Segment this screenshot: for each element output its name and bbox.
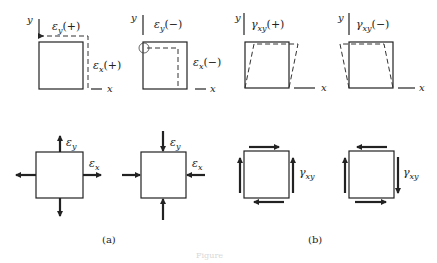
shear-strain-negative-element: y γxy(−) x [337, 12, 425, 93]
original-square [349, 42, 393, 88]
original-square [245, 42, 289, 88]
x-axis-label: x [107, 83, 113, 94]
deformed-outline-dashed [340, 44, 393, 88]
y-axis-label: y [26, 14, 33, 25]
deformed-outline-dashed [39, 36, 88, 89]
shear-label: γxy(−) [356, 18, 389, 33]
x-axis-label: x [321, 82, 327, 93]
element-square [349, 151, 394, 198]
deformed-outline-dashed [147, 48, 178, 89]
y-axis-label: y [337, 12, 344, 23]
x-axis-label: x [419, 82, 425, 93]
strain-y-label: εy [170, 136, 181, 151]
strain-x-label: εx [192, 157, 203, 172]
strain-x-label: εx(−) [193, 56, 221, 71]
shear-label: γxy [299, 166, 315, 181]
strain-y-label: εy [66, 136, 77, 151]
normal-strain-negative-element: y εy(−) εx(−) x [130, 12, 221, 94]
normal-strain-positive-element: y εy(+) εx(+) x [26, 14, 121, 94]
element-square [244, 151, 289, 198]
panel-a-label: (a) [102, 234, 116, 245]
positive-shear-element: γxy [240, 147, 315, 202]
y-axis-label: y [234, 12, 241, 23]
strain-y-label: εy(+) [52, 20, 80, 35]
deformed-outline-dashed [245, 44, 298, 88]
shear-label: γxy(+) [251, 18, 284, 33]
shear-strain-positive-element: y γxy(+) x [234, 12, 327, 93]
figure-caption: Figure [196, 251, 223, 260]
y-axis-label: y [130, 12, 137, 23]
panel-b-label: (b) [308, 234, 322, 245]
strain-y-label: εy(−) [154, 18, 182, 33]
strain-diagram: y εy(+) εx(+) x y εy(−) εx(−) x y γxy(+)… [0, 0, 437, 263]
negative-shear-element: γxy [345, 147, 419, 202]
strain-x-label: εx(+) [93, 59, 121, 74]
tension-element: εy εx [16, 136, 101, 216]
x-axis-label: x [210, 83, 216, 94]
element-square [141, 152, 186, 198]
original-square [143, 42, 187, 89]
shear-label: γxy [403, 166, 419, 181]
compression-element: εy εx [122, 131, 205, 220]
element-square [36, 152, 83, 198]
strain-x-label: εx [89, 157, 100, 172]
original-square [39, 42, 83, 89]
